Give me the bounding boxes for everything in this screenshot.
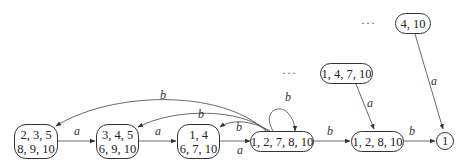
state-node-1-4-7-10: 1, 4, 7, 10	[320, 63, 373, 84]
state-label: 1, 2, 7, 8, 10	[251, 135, 314, 149]
state-node-1-4-6-7-10: 1, 4 6, 7, 10	[177, 124, 220, 159]
state-node-1-2-8-10: 1, 2, 8, 10	[351, 131, 404, 152]
state-node-4-10: 4, 10	[395, 13, 431, 34]
state-label: 1, 4	[189, 128, 208, 142]
edge-label-n8-n6: a	[431, 75, 437, 87]
edge-n4-n1	[56, 100, 266, 131]
edge-label-n4-n3: b	[236, 121, 242, 133]
edge-n4-n3	[220, 122, 270, 131]
state-label: 3, 4, 5	[102, 128, 133, 142]
edge-label-n2-n3: a	[155, 125, 161, 137]
ellipsis-middle: ···	[282, 66, 297, 81]
state-label: 8, 9, 10	[17, 142, 55, 156]
state-node-3-4-5-6-9-10: 3, 4, 5 6, 9, 10	[96, 124, 139, 159]
edge-label-n3-n4: a	[237, 144, 243, 156]
state-label: 1, 4, 7, 10	[322, 67, 372, 81]
state-label: 1, 2, 8, 10	[353, 135, 403, 149]
edge-label-n5-n6: b	[409, 125, 415, 137]
edge-label-n4-n5: b	[327, 125, 333, 137]
ellipsis-top: ···	[361, 16, 376, 31]
state-label: 1	[442, 134, 448, 148]
state-label: 6, 7, 10	[180, 142, 218, 156]
state-label: 4, 10	[401, 17, 426, 31]
state-node-1-2-7-8-10: 1, 2, 7, 8, 10	[250, 131, 314, 152]
edge-label-n4-self: b	[285, 91, 291, 103]
edge-n4-self	[269, 109, 295, 131]
edge-label-n7-n5: a	[367, 97, 373, 109]
edge-label-n1-n2: a	[74, 125, 80, 137]
state-node-1: 1	[436, 132, 454, 150]
edge-label-n4-n1: b	[160, 89, 166, 101]
edge-label-n4-n2: b	[198, 108, 204, 120]
state-node-2-3-5-8-9-10: 2, 3, 5 8, 9, 10	[14, 124, 58, 159]
state-label: 2, 3, 5	[20, 128, 51, 142]
state-label: 6, 9, 10	[99, 142, 137, 156]
edge-n8-n6	[415, 34, 443, 129]
